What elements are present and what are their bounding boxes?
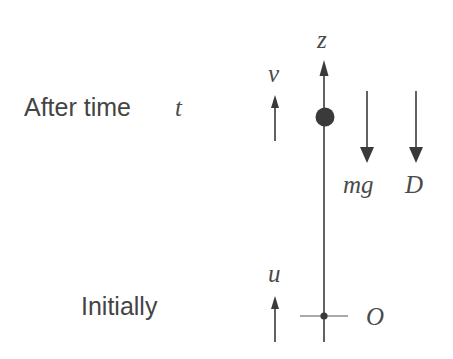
origin-marker — [300, 312, 348, 319]
z-axis-label: z — [316, 26, 327, 53]
initially-label: Initially — [81, 292, 158, 320]
velocity-v-label: v — [268, 60, 280, 87]
particle — [316, 108, 335, 127]
velocity-u-arrow — [271, 296, 279, 342]
weight-force-arrow — [360, 91, 374, 163]
origin-dot — [320, 312, 327, 319]
projectile-drag-diagram: After time t Initially z v mg D u O — [0, 0, 453, 359]
velocity-v-arrow — [271, 95, 279, 141]
velocity-u-arrowhead — [271, 296, 279, 309]
velocity-v-arrowhead — [271, 95, 279, 108]
after-time-label: After time — [24, 93, 131, 121]
z-axis — [320, 60, 329, 342]
origin-label: O — [366, 303, 384, 330]
z-axis-arrowhead — [320, 60, 329, 76]
weight-force-label: mg — [343, 171, 374, 198]
drag-force-arrowhead — [409, 147, 423, 163]
velocity-u-label: u — [268, 260, 281, 287]
weight-force-arrowhead — [360, 147, 374, 163]
drag-force-label: D — [404, 171, 423, 198]
drag-force-arrow — [409, 91, 423, 163]
time-symbol: t — [175, 94, 183, 121]
